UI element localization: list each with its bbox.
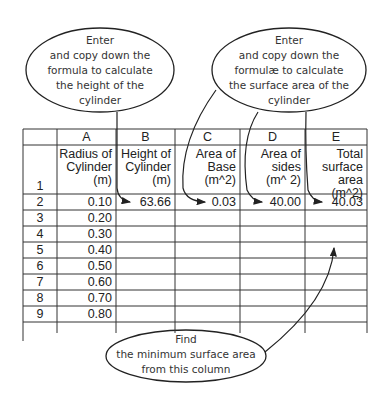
callout-height-text: Enter and copy down the formula to calcu… xyxy=(30,33,170,108)
callout-surface-text: Enter and copy down the formulæ to calcu… xyxy=(214,33,364,108)
column-header-D[interactable]: D xyxy=(240,131,305,144)
row-number-4[interactable]: 4 xyxy=(23,228,57,241)
cell-D2[interactable]: 40.00 xyxy=(240,196,305,209)
row-number-8[interactable]: 8 xyxy=(23,292,57,305)
arrow-to-column-E xyxy=(265,248,334,352)
cell-D1[interactable]: Area of sides (m^ 2) xyxy=(240,148,305,187)
row-number-3[interactable]: 3 xyxy=(23,212,57,225)
cell-A1[interactable]: Radius of Cylinder (m) xyxy=(57,148,116,187)
cell-B1[interactable]: Height of Cylinder (m) xyxy=(116,148,175,187)
column-header-A[interactable]: A xyxy=(57,131,116,144)
row-number-7[interactable]: 7 xyxy=(23,276,57,289)
cell-A4[interactable]: 0.30 xyxy=(57,228,116,241)
cell-A5[interactable]: 0.40 xyxy=(57,244,116,257)
cell-C1[interactable]: Area of Base (m^2) xyxy=(175,148,240,187)
row-number-1[interactable]: 1 xyxy=(23,180,57,193)
cell-A3[interactable]: 0.20 xyxy=(57,212,116,225)
cell-E2[interactable]: 40.03 xyxy=(305,196,367,209)
cell-A9[interactable]: 0.80 xyxy=(57,308,116,321)
row-number-5[interactable]: 5 xyxy=(23,244,57,257)
row-number-9[interactable]: 9 xyxy=(23,308,57,321)
row-number-6[interactable]: 6 xyxy=(23,260,57,273)
cell-A2[interactable]: 0.10 xyxy=(57,196,116,209)
column-header-E[interactable]: E xyxy=(305,131,367,144)
cell-B2[interactable]: 63.66 xyxy=(116,196,175,209)
callout-minimum-text: Find the minimum surface area from this … xyxy=(110,332,262,377)
column-header-C[interactable]: C xyxy=(175,131,240,144)
column-header-B[interactable]: B xyxy=(116,131,175,144)
cell-E1[interactable]: Total surface area (m^2) xyxy=(305,148,367,200)
cell-A8[interactable]: 0.70 xyxy=(57,292,116,305)
cell-A7[interactable]: 0.60 xyxy=(57,276,116,289)
cell-C2[interactable]: 0.03 xyxy=(175,196,240,209)
row-number-2[interactable]: 2 xyxy=(23,196,57,209)
cell-A6[interactable]: 0.50 xyxy=(57,260,116,273)
